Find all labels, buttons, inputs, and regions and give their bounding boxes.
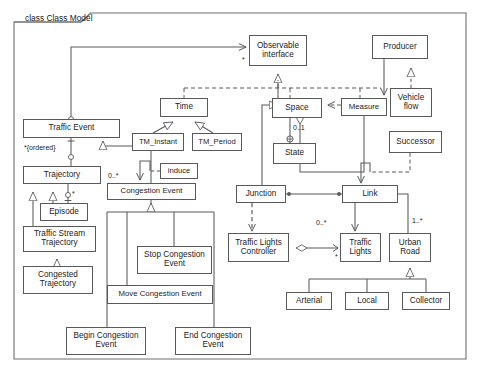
edge-induce-congestion-event (140, 161, 160, 180)
edge-successor-link (361, 153, 410, 183)
class-box-local[interactable]: Local (345, 292, 389, 310)
class-box-move-congestion-event[interactable]: Move Congestion Event (107, 285, 213, 304)
class-box-induce[interactable]: induce (160, 163, 198, 179)
class-box-junction[interactable]: Junction (236, 185, 286, 203)
uml-class-diagram: class Class Model Observableinterface Pr… (0, 0, 481, 378)
multiplicity-episode: * (72, 190, 75, 197)
class-box-space[interactable]: Space (272, 98, 322, 118)
multiplicity-congestion-event: 0..* (108, 172, 119, 179)
class-box-trajectory[interactable]: Trajectory (23, 166, 101, 184)
class-box-arterial[interactable]: Arterial (286, 292, 332, 310)
multiplicity-urban-road: 1..* (412, 217, 423, 224)
multiplicity-observable-interface: * (242, 56, 245, 63)
edge-traffic-event-observable-interface (69, 47, 246, 121)
class-box-traffic-event[interactable]: Traffic Event (23, 119, 120, 138)
frame-label: class Class Model (25, 13, 93, 23)
edge-junction-link (286, 192, 342, 196)
class-box-episode[interactable]: Episode (40, 203, 88, 221)
class-box-successor[interactable]: Successor (389, 131, 442, 153)
class-box-vehicle-flow[interactable]: Vehicleflow (390, 88, 432, 117)
class-box-tm-instant[interactable]: TM_Instant (132, 133, 184, 151)
class-box-traffic-lights-controller[interactable]: Traffic LightsController (228, 233, 289, 262)
edge-tm-period-time (195, 122, 213, 133)
multiplicity-traffic-lights-controller: * (335, 253, 338, 260)
edge-traffic-lights-controller-traffic-lights (296, 245, 338, 252)
class-box-congestion-event[interactable]: Congestion Event (107, 183, 196, 200)
edge-urban-road-subclass-tree (309, 268, 426, 292)
multiplicity-trajectory-ordered: *{ordered} (24, 144, 56, 151)
class-box-measure[interactable]: Measure (341, 98, 387, 116)
class-box-traffic-lights[interactable]: TrafficLights (340, 233, 381, 262)
class-box-producer[interactable]: Producer (372, 35, 428, 59)
edge-link-urban-road (398, 194, 408, 233)
multiplicity-state: 0..1 (293, 124, 305, 131)
class-box-tm-period[interactable]: TM_Period (192, 133, 242, 151)
class-box-time[interactable]: Time (160, 98, 208, 117)
edge-trajectory-traffic-event (68, 138, 75, 166)
class-box-observable-interface[interactable]: Observableinterface (249, 35, 307, 66)
class-box-collector[interactable]: Collector (402, 292, 450, 310)
multiplicity-traffic-lights: 0..* (316, 219, 327, 226)
class-box-traffic-stream-trajectory[interactable]: Traffic StreamTrajectory (23, 226, 96, 252)
class-box-congested-trajectory[interactable]: CongestedTrajectory (23, 266, 93, 294)
class-box-urban-road[interactable]: UrbanRoad (389, 233, 431, 262)
class-box-end-congestion-event[interactable]: End CongestionEvent (175, 327, 251, 355)
edge-tm-instant-time (153, 122, 173, 133)
edge-episode-trajectory-agg (65, 184, 72, 203)
edge-junction-space (236, 105, 278, 194)
class-box-link[interactable]: Link (342, 185, 398, 203)
class-box-begin-congestion-event[interactable]: Begin CongestionEvent (66, 327, 146, 355)
edge-dependency-bus-observable-interface (184, 80, 381, 98)
class-box-state[interactable]: State (273, 143, 316, 164)
class-box-stop-congestion-event[interactable]: Stop CongestionEvent (137, 246, 212, 274)
